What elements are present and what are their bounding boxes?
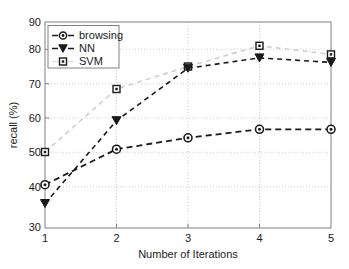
- marker-dot-browsing-2: [115, 148, 118, 151]
- x-axis-title: Number of Iterations: [138, 248, 238, 260]
- y-tick-label-40: 40: [29, 181, 41, 193]
- x-tick-label-3: 3: [185, 232, 191, 244]
- marker-dot-svm-2: [115, 88, 117, 90]
- y-tick-label-30: 30: [29, 221, 41, 233]
- y-tick-label-70: 70: [29, 78, 41, 90]
- y-tick-label-60: 60: [29, 112, 41, 124]
- y-tick-label-80: 80: [29, 43, 41, 55]
- y-axis-title: recall (%): [7, 102, 19, 148]
- legend-label-browsing: browsing: [79, 29, 123, 41]
- marker-dot-svm-1: [44, 151, 46, 153]
- marker-dot-browsing-5: [330, 128, 333, 131]
- chart-figure: 90 80 70 60 50 40 30 1 2 3 4 5 Number of…: [0, 0, 349, 269]
- marker-dot-svm-5: [330, 53, 332, 55]
- legend-label-nn: NN: [79, 42, 95, 54]
- legend-label-svm: SVM: [79, 55, 103, 67]
- square-center-dot-icon: [62, 60, 64, 62]
- marker-dot-browsing-1: [44, 183, 47, 186]
- circle-center-dot-icon: [62, 34, 65, 37]
- marker-dot-svm-4: [258, 45, 260, 47]
- marker-dot-browsing-3: [187, 136, 190, 139]
- marker-dot-browsing-4: [258, 128, 261, 131]
- x-tick-label-2: 2: [113, 232, 119, 244]
- y-tick-label-50: 50: [29, 146, 41, 158]
- y-tick-label-90: 90: [29, 16, 41, 28]
- x-tick-label-5: 5: [328, 232, 334, 244]
- recall-vs-iterations-chart: 90 80 70 60 50 40 30 1 2 3 4 5 Number of…: [0, 0, 349, 269]
- x-tick-label-4: 4: [256, 232, 262, 244]
- chart-legend: browsing NN SVM: [48, 26, 123, 69]
- x-tick-label-1: 1: [42, 232, 48, 244]
